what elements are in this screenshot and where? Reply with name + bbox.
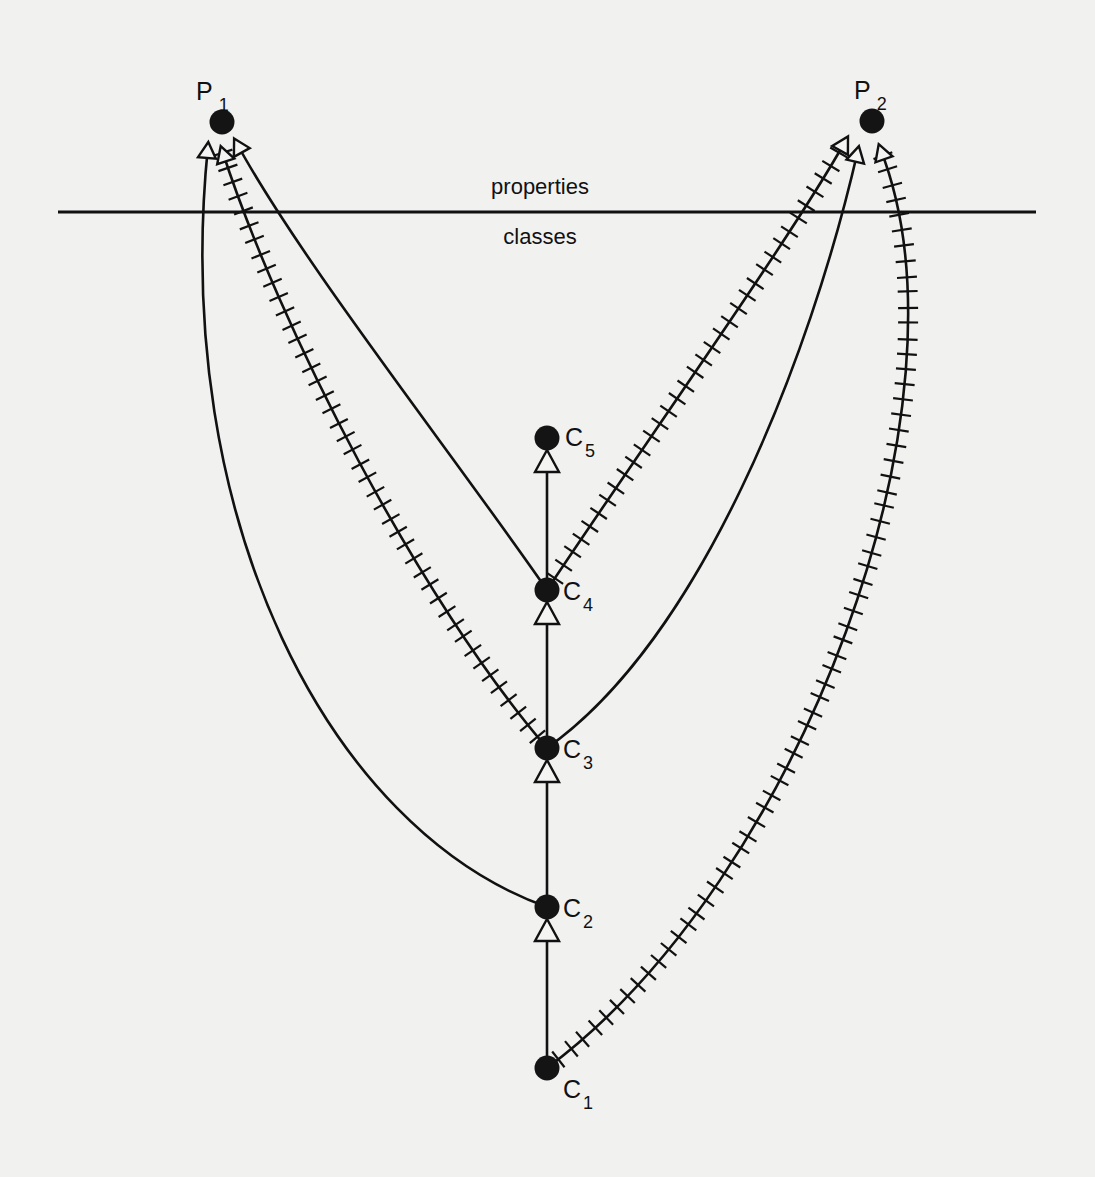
hatch-tick xyxy=(501,694,517,706)
hatch-tick xyxy=(894,244,914,246)
label-subscript: 1 xyxy=(219,95,229,115)
hatch-tick xyxy=(599,495,616,506)
hatch-tick xyxy=(316,391,334,400)
hatch-tick xyxy=(671,931,687,943)
hatch-tick xyxy=(898,291,918,292)
hatch-tick xyxy=(352,460,370,470)
label-letter: C xyxy=(563,577,581,605)
inheritance-arrowhead-c3 xyxy=(535,760,559,782)
region-label-properties: properties xyxy=(491,174,589,199)
hatch-tick xyxy=(323,404,341,413)
hatch-tick xyxy=(382,514,399,524)
label-subscript: 5 xyxy=(585,441,595,461)
hatch-tick xyxy=(713,328,730,339)
hatch-tick xyxy=(822,161,839,171)
hatch-tick xyxy=(374,500,391,510)
arrowhead-c2-p1 xyxy=(198,142,216,159)
hatch-tick xyxy=(771,776,789,785)
hatch-tick xyxy=(439,606,456,617)
inheritance-arrowhead-c4 xyxy=(535,602,559,624)
label-letter: P xyxy=(196,77,213,105)
hatch-tick xyxy=(430,593,447,604)
class-label-c3: C3 xyxy=(563,735,593,773)
label-letter: P xyxy=(854,76,871,104)
class-node-c3[interactable] xyxy=(535,736,560,761)
hatch-tick xyxy=(421,579,438,590)
hatch-tick xyxy=(889,429,909,432)
hatch-tick xyxy=(815,173,832,184)
hatch-tick xyxy=(898,339,918,340)
hatch-tick xyxy=(455,631,472,642)
hatch-tick xyxy=(756,803,773,813)
hatch-tick xyxy=(669,393,686,404)
hatch-tick xyxy=(405,553,422,563)
label-subscript: 2 xyxy=(877,94,887,114)
hatch-tick xyxy=(732,843,749,854)
hatch-tick xyxy=(807,187,824,198)
class-node-c2[interactable] xyxy=(535,895,560,920)
diagram-canvas: properties classes P1P2C1C2C3C4C5 xyxy=(0,0,1095,1177)
hatch-tick xyxy=(739,831,756,841)
class-label-c2: C2 xyxy=(563,894,593,932)
hatch-tick xyxy=(798,200,815,211)
label-subscript: 4 xyxy=(583,595,593,615)
hatch-tick xyxy=(680,918,696,930)
hatch-tick xyxy=(724,857,741,868)
hatch-tick xyxy=(763,791,781,801)
hatch-tick xyxy=(896,260,916,262)
edge-c1-p2-hatched xyxy=(547,148,918,1068)
class-label-c1: C1 xyxy=(563,1075,593,1113)
hatch-tick xyxy=(756,264,773,275)
label-letter: C xyxy=(565,423,583,451)
hatch-tick xyxy=(555,560,572,571)
edge-c3-p1-hatched xyxy=(213,150,547,748)
hatch-tick xyxy=(739,290,756,301)
hatch-tick xyxy=(747,278,764,289)
hatch-tick xyxy=(721,316,738,327)
edge-line xyxy=(547,148,908,1068)
hatch-tick xyxy=(695,354,712,365)
hatch-tick xyxy=(590,508,607,519)
hatch-tick xyxy=(491,681,507,693)
edge-line xyxy=(202,146,547,907)
hatch-tick xyxy=(359,472,377,482)
hatch-tick xyxy=(704,342,721,353)
label-letter: C xyxy=(563,735,581,763)
property-label-p2: P2 xyxy=(854,76,887,114)
hatch-tick xyxy=(698,895,714,907)
edge-c2-p1-plain xyxy=(202,146,547,907)
hatch-tick xyxy=(896,368,916,370)
label-subscript: 1 xyxy=(583,1093,593,1113)
hatch-tick xyxy=(473,657,489,669)
hatch-tick xyxy=(781,226,798,237)
hatch-tick xyxy=(625,457,642,468)
class-node-c4[interactable] xyxy=(535,578,560,603)
hatch-tick xyxy=(510,707,526,719)
class-label-c5: C5 xyxy=(565,423,595,461)
inheritance-arrowhead-c2 xyxy=(535,919,559,941)
edge-c4-p2-hatched xyxy=(547,140,848,590)
class-node-c5[interactable] xyxy=(535,426,560,451)
hatch-tick xyxy=(367,487,385,497)
hatch-tick xyxy=(564,546,581,557)
class-node-c1[interactable] xyxy=(535,1056,560,1081)
hatch-tick xyxy=(390,527,407,537)
hatch-tick xyxy=(748,817,765,827)
hatch-tick xyxy=(397,539,414,549)
hatch-tick xyxy=(573,534,590,545)
edge-line xyxy=(222,150,547,748)
hatch-tick xyxy=(891,413,911,416)
hatch-tick xyxy=(790,213,807,224)
inheritance-arrowhead-c5 xyxy=(535,450,559,472)
hatch-tick xyxy=(707,882,724,893)
hatch-tick xyxy=(643,431,660,442)
label-letter: C xyxy=(563,1075,581,1103)
edge-line xyxy=(547,140,846,590)
hatch-tick xyxy=(482,669,498,681)
hatch-tick xyxy=(897,277,917,278)
label-subscript: 2 xyxy=(583,912,593,932)
label-letter: C xyxy=(563,894,581,922)
arrowheads-layer xyxy=(198,137,893,942)
hatch-tick xyxy=(661,943,677,956)
class-label-c4: C4 xyxy=(563,577,593,615)
